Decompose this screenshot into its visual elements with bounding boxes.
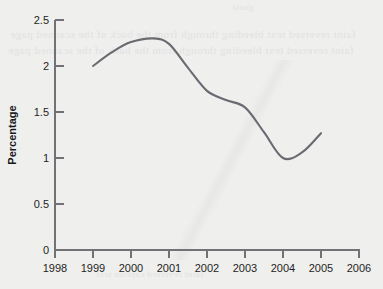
x-tick-label: 2000 [119, 262, 143, 274]
x-axis-ticks: 1998 1999 2000 2001 2002 2003 2004 2005 … [43, 250, 371, 274]
line-chart: Percentage 0 0.5 1 1.5 2 2.5 1998 1999 [0, 0, 383, 289]
x-tick-label: 2005 [309, 262, 333, 274]
x-tick-label: 1999 [81, 262, 105, 274]
y-tick-label: 0.5 [34, 198, 49, 210]
x-tick-label: 1998 [43, 262, 67, 274]
data-series-line [93, 38, 321, 159]
chart-canvas: Percentage 0 0.5 1 1.5 2 2.5 1998 1999 [0, 0, 383, 289]
x-tick-label: 2006 [347, 262, 371, 274]
y-axis-label: Percentage [6, 105, 18, 164]
x-tick-label: 2001 [157, 262, 181, 274]
y-tick-label: 1 [43, 152, 49, 164]
y-axis-ticks: 0 0.5 1 1.5 2 2.5 [34, 14, 64, 256]
y-tick-label: 1.5 [34, 106, 49, 118]
y-tick-label: 0 [43, 244, 49, 256]
y-tick-label: 2.5 [34, 14, 49, 26]
x-tick-label: 2003 [233, 262, 257, 274]
x-tick-label: 2004 [271, 262, 295, 274]
x-tick-label: 2002 [195, 262, 219, 274]
y-tick-label: 2 [43, 60, 49, 72]
